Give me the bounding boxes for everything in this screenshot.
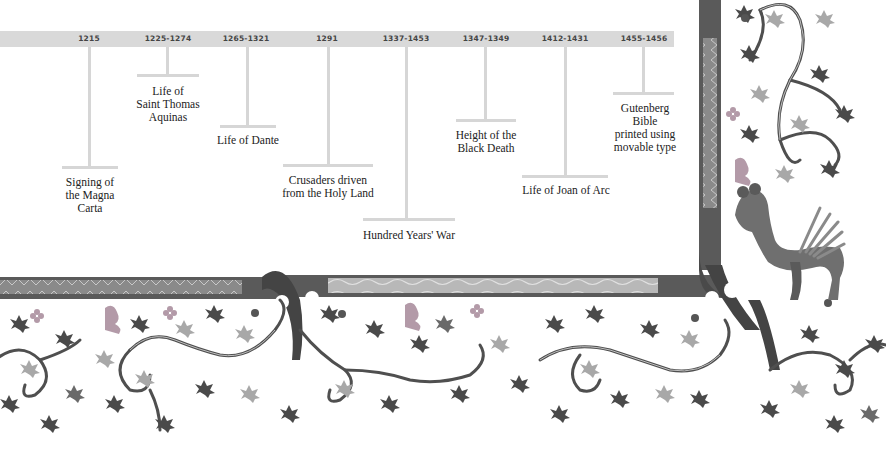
illuminated-border — [0, 0, 886, 456]
timeline-diagram: 1215 Signing of the Magna Carta 1225-127… — [0, 0, 886, 456]
border-band-vertical — [699, 0, 739, 298]
winged-creature-illustration — [735, 183, 844, 300]
quatrefoil-flowers — [30, 107, 750, 334]
border-band-horizontal — [0, 275, 722, 299]
